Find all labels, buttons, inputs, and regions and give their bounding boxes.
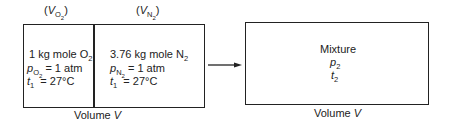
o2-pressure-value: = 1 atm [45,62,82,74]
sub: 1 [30,81,34,90]
sub: 1 [113,81,117,90]
volume-text: Volume [314,107,351,119]
n2-temperature: t1 = 27°C [110,75,157,88]
process-arrow-icon [207,60,243,70]
o2-amount: 1 kg mole O2 [29,48,92,61]
n2-amount-text: 3.76 kg mole N [110,48,184,60]
sub: 2 [334,75,338,84]
n2-amount: 3.76 kg mole N2 [110,48,188,61]
o2-volume-label: (VO2) [44,4,68,18]
v-symbol: V [48,4,55,16]
sub: 2 [88,54,92,63]
v-symbol: V [114,109,121,121]
o2-amount-text: 1 kg mole O [29,48,88,60]
mixture-temperature: t2 [331,69,338,82]
partition-divider [93,24,95,108]
o2-temperature-value: = 27°C [40,75,74,87]
subsub: 2 [61,15,64,21]
subsub: 2 [152,15,155,21]
n2-pressure: pN2 = 1 atm [110,62,165,76]
o2-temperature: t1 = 27°C [27,75,74,88]
n2-pressure-value: = 1 atm [128,62,165,74]
n2-volume-label: (VN2) [136,4,159,18]
left-volume-caption: Volume V [74,109,121,121]
mixture-title: Mixture [320,43,356,56]
v-symbol: V [354,107,361,119]
volume-text: Volume [74,109,111,121]
n2-temperature-value: = 27°C [123,75,157,87]
v-symbol: V [140,4,147,16]
sub: 2 [184,54,188,63]
o2-pressure: pO2 = 1 atm [27,62,82,76]
mixture-pressure: p2 [330,56,340,69]
right-volume-caption: Volume V [314,107,361,119]
